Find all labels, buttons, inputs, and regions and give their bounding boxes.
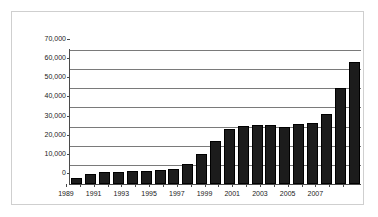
x-tick-label-2005: 2005 xyxy=(280,190,296,198)
bar-1992 xyxy=(113,172,124,184)
x-tick-label-1991: 1991 xyxy=(86,190,102,198)
x-tick-label-1989: 1989 xyxy=(58,190,74,198)
bar-2006 xyxy=(307,123,318,184)
y-tick-label-50000: 50,000 xyxy=(45,73,66,80)
bar-1996 xyxy=(168,169,179,184)
bar-2003 xyxy=(265,125,276,184)
x-tick-label-1997: 1997 xyxy=(169,190,185,198)
bar-2001 xyxy=(238,126,249,184)
x-tick-mark-1995 xyxy=(149,184,150,187)
bar-2009 xyxy=(349,62,360,185)
x-tick-mark-1990 xyxy=(80,184,81,187)
y-tick-mark-0 xyxy=(67,173,70,174)
y-tick-mark-50000 xyxy=(67,77,70,78)
x-tick-mark-2007 xyxy=(315,184,316,187)
chart-figure: 010,00020,00030,00040,00050,00060,00070,… xyxy=(0,0,378,217)
x-tick-mark-2006 xyxy=(302,184,303,187)
bar-2008 xyxy=(335,88,346,184)
y-tick-label-10000: 10,000 xyxy=(45,150,66,157)
y-tick-label-60000: 60,000 xyxy=(45,54,66,61)
bar-1997 xyxy=(182,164,193,184)
y-tick-mark-70000 xyxy=(67,39,70,40)
bar-1991 xyxy=(99,172,110,184)
x-tick-label-1999: 1999 xyxy=(197,190,213,198)
x-tick-mark-1989 xyxy=(66,184,67,187)
bar-series xyxy=(70,50,361,184)
x-tick-mark-2003 xyxy=(260,184,261,187)
x-tick-mark-1999 xyxy=(205,184,206,187)
x-tick-mark-2001 xyxy=(232,184,233,187)
x-tick-mark-1994 xyxy=(135,184,136,187)
x-tick-mark-2009 xyxy=(343,184,344,187)
x-tick-label-1993: 1993 xyxy=(114,190,130,198)
bar-1998 xyxy=(196,154,207,184)
y-tick-label-30000: 30,000 xyxy=(45,112,66,119)
y-tick-mark-30000 xyxy=(67,116,70,117)
y-axis-tick-labels: 010,00020,00030,00040,00050,00060,00070,… xyxy=(12,12,66,217)
x-tick-mark-2005 xyxy=(288,184,289,187)
x-tick-mark-1993 xyxy=(121,184,122,187)
y-tick-mark-10000 xyxy=(67,154,70,155)
x-tick-label-2007: 2007 xyxy=(308,190,324,198)
x-tick-mark-2002 xyxy=(246,184,247,187)
x-tick-mark-1991 xyxy=(94,184,95,187)
y-tick-mark-60000 xyxy=(67,58,70,59)
x-tick-label-2003: 2003 xyxy=(252,190,268,198)
bar-2002 xyxy=(252,125,263,184)
y-tick-label-20000: 20,000 xyxy=(45,131,66,138)
x-axis-line xyxy=(69,184,361,185)
x-tick-mark-1992 xyxy=(108,184,109,187)
y-axis-line xyxy=(69,49,70,185)
bar-1990 xyxy=(85,174,96,184)
x-tick-mark-2004 xyxy=(274,184,275,187)
y-tick-label-0: 0 xyxy=(62,169,66,176)
y-tick-mark-40000 xyxy=(67,96,70,97)
x-tick-label-2001: 2001 xyxy=(224,190,240,198)
y-tick-label-70000: 70,000 xyxy=(45,35,66,42)
bar-1994 xyxy=(141,171,152,184)
bar-1995 xyxy=(155,170,166,184)
bar-2007 xyxy=(321,114,332,184)
y-tick-label-40000: 40,000 xyxy=(45,92,66,99)
bar-1993 xyxy=(127,171,138,184)
x-tick-label-1995: 1995 xyxy=(141,190,157,198)
bar-2004 xyxy=(279,127,290,184)
x-tick-mark-1996 xyxy=(163,184,164,187)
bar-1999 xyxy=(210,141,221,184)
bar-2000 xyxy=(224,129,235,184)
y-tick-mark-20000 xyxy=(67,135,70,136)
x-tick-mark-1998 xyxy=(191,184,192,187)
chart-frame: 010,00020,00030,00040,00050,00060,00070,… xyxy=(11,11,364,205)
x-tick-mark-1997 xyxy=(177,184,178,187)
x-tick-mark-2008 xyxy=(329,184,330,187)
bar-2005 xyxy=(293,124,304,184)
x-tick-mark-2000 xyxy=(218,184,219,187)
